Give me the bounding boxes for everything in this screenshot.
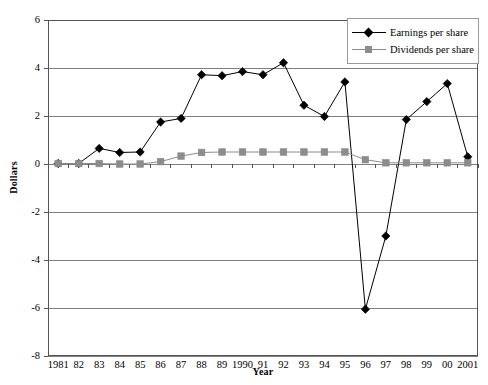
data-point-square-icon [219,149,226,156]
data-point-diamond-icon [279,59,287,67]
data-point-diamond-icon [95,144,103,152]
x-tick-label: 2001 [457,360,478,370]
x-tick-label: 86 [155,360,166,370]
x-tick-label: 88 [196,360,207,370]
legend-label-dividends: Dividends per share [386,44,474,55]
data-point-square-icon [424,160,431,167]
legend-marker-earnings [352,26,386,39]
legend-label-earnings: Earnings per share [386,27,468,38]
data-point-diamond-icon [382,232,390,240]
x-tick-label: 85 [135,360,146,370]
data-point-diamond-icon [136,148,144,156]
data-point-diamond-icon [361,305,369,313]
y-axis-title: Dollars [8,143,19,213]
y-tick-label: -6 [4,303,40,313]
data-point-square-icon [321,149,328,156]
data-point-square-icon [464,160,471,167]
data-point-diamond-icon [115,148,123,156]
data-point-diamond-icon [238,67,246,75]
x-tick-label: 91 [258,360,269,370]
x-tick-label: 00 [442,360,453,370]
data-point-square-icon [383,160,390,167]
data-point-square-icon [116,161,123,168]
y-tick-label: 2 [4,111,40,121]
legend-item-dividends: Dividends per share [352,41,474,58]
x-tick-label: 96 [360,360,371,370]
data-point-diamond-icon [320,112,328,120]
data-point-square-icon [301,149,308,156]
data-point-square-icon [178,153,185,160]
data-point-square-icon [157,158,164,165]
y-tick-label: 4 [4,63,40,73]
x-tick-label: 95 [340,360,351,370]
y-tick-label: -4 [4,255,40,265]
y-tick-label: 0 [4,159,40,169]
data-point-diamond-icon [218,71,226,79]
x-tick-label: 93 [299,360,310,370]
data-point-square-icon [362,156,369,163]
data-point-square-icon [96,160,103,167]
data-point-diamond-icon [341,78,349,86]
x-tick-label: 94 [319,360,330,370]
x-tick-label: 83 [94,360,105,370]
data-point-diamond-icon [300,101,308,109]
chart-legend: Earnings per share Dividends per share [347,18,479,64]
chart-container: Dollars Year 6420-2-4-6-8 19818283848586… [0,0,488,385]
data-point-square-icon [239,149,246,156]
data-point-square-icon [75,160,82,167]
data-point-diamond-icon [156,118,164,126]
diamond-icon [364,28,374,38]
x-tick-label: 84 [114,360,125,370]
square-icon [365,46,372,53]
data-point-square-icon [280,149,287,156]
x-tick-label: 97 [381,360,392,370]
data-point-diamond-icon [259,71,267,79]
data-point-square-icon [55,160,62,167]
data-point-square-icon [260,149,267,156]
data-point-square-icon [403,160,410,167]
x-tick-label: 98 [401,360,412,370]
x-tick-label: 99 [422,360,433,370]
x-tick-label: 87 [176,360,187,370]
legend-item-earnings: Earnings per share [352,24,474,41]
y-tick-label: 6 [4,15,40,25]
x-tick-label: 82 [73,360,84,370]
y-tick-label: -2 [4,207,40,217]
data-point-square-icon [342,149,349,156]
legend-marker-dividends [352,43,386,56]
x-tick-label: 92 [278,360,289,370]
x-tick-label: 1990 [232,360,253,370]
data-point-square-icon [137,161,144,168]
x-tick-label: 1981 [48,360,69,370]
data-point-square-icon [444,160,451,167]
y-tick-label: -8 [4,351,40,361]
data-point-diamond-icon [197,71,205,79]
x-tick-label: 89 [217,360,228,370]
data-point-square-icon [198,149,205,156]
data-point-diamond-icon [177,114,185,122]
series-line-earnings [58,63,468,309]
